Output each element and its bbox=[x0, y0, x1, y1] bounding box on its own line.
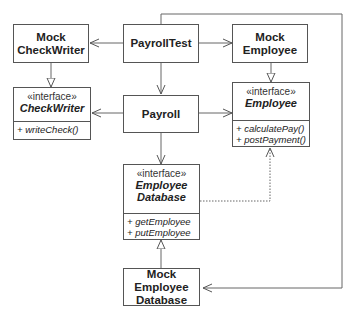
operations-compartment: + writeCheck() bbox=[14, 121, 90, 137]
class-name: Mock bbox=[36, 31, 65, 44]
interface-name: Employee bbox=[233, 97, 309, 109]
class-payroll[interactable]: Payroll bbox=[123, 95, 199, 133]
interface-name: Database bbox=[124, 191, 199, 203]
class-name: Employee bbox=[134, 281, 188, 294]
operations-compartment: + getEmployee + putEmployee bbox=[124, 213, 199, 240]
class-mock-employee[interactable]: Mock Employee bbox=[232, 24, 308, 63]
class-name: Mock bbox=[147, 268, 176, 281]
class-name: PayrollTest bbox=[130, 37, 191, 50]
class-name: CheckWriter bbox=[17, 44, 85, 57]
operations-compartment: + calculatePay() + postPayment() bbox=[233, 120, 309, 147]
class-mock-employee-database[interactable]: Mock Employee Database bbox=[123, 268, 200, 306]
class-name: Payroll bbox=[142, 108, 180, 121]
class-mock-check-writer[interactable]: Mock CheckWriter bbox=[13, 24, 89, 63]
operation: + postPayment() bbox=[236, 134, 306, 145]
class-name: Employee bbox=[243, 44, 297, 57]
interface-employee[interactable]: «interface» Employee + calculatePay() + … bbox=[232, 82, 310, 147]
stereotype-label: «interface» bbox=[14, 91, 90, 102]
class-payroll-test[interactable]: PayrollTest bbox=[123, 24, 199, 63]
interface-check-writer[interactable]: «interface» CheckWriter + writeCheck() bbox=[13, 87, 91, 140]
operation: + putEmployee bbox=[127, 227, 196, 238]
operation: + writeCheck() bbox=[17, 124, 87, 135]
operation: + getEmployee bbox=[127, 216, 196, 227]
class-name: Mock bbox=[255, 31, 284, 44]
operation: + calculatePay() bbox=[236, 123, 306, 134]
stereotype-label: «interface» bbox=[124, 168, 199, 179]
interface-name: Employee bbox=[124, 179, 199, 191]
interface-name: CheckWriter bbox=[14, 102, 90, 114]
stereotype-label: «interface» bbox=[233, 86, 309, 97]
interface-employee-database[interactable]: «interface» Employee Database + getEmplo… bbox=[123, 164, 200, 240]
edge-employeedb-employee-dependency bbox=[200, 148, 270, 201]
class-name: Database bbox=[136, 294, 187, 307]
